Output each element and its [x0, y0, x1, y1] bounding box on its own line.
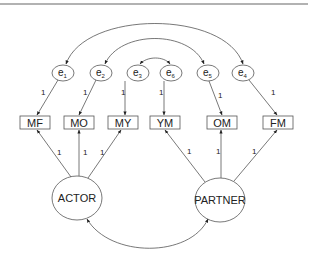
svg-text:PARTNER: PARTNER [194, 194, 246, 206]
indicator-mf: MF [20, 116, 50, 129]
loading-actor-mf: 1 [57, 148, 62, 157]
error-e2: e2 [90, 65, 112, 81]
loading-actor-my: 1 [100, 148, 105, 157]
latent-partner: PARTNER [194, 178, 246, 222]
indicator-fm: FM [263, 116, 293, 129]
loading-e5: 1 [218, 91, 223, 100]
svg-text:MY: MY [115, 117, 132, 129]
loading-actor-mo: 1 [83, 148, 88, 157]
error-e6: e6 [160, 65, 182, 81]
svg-text:MF: MF [27, 117, 43, 129]
loading-partner-om: 1 [216, 147, 221, 156]
covariance-arc-e2-e5 [105, 39, 204, 65]
sem-diagram: e1 e2 e3 e6 e5 e4 1 1 1 1 1 1 MF MO MY [0, 0, 309, 263]
svg-text:YM: YM [157, 117, 174, 129]
loading-e3: 1 [121, 88, 126, 97]
indicator-om: OM [207, 116, 237, 129]
loading-e1: 1 [41, 88, 46, 97]
path-actor-mf [37, 130, 71, 177]
indicator-my: MY [108, 116, 138, 129]
covariance-arc-actor-partner [87, 219, 208, 248]
svg-text:MO: MO [70, 117, 88, 129]
latent-actor: ACTOR [52, 176, 102, 220]
loading-partner-ym: 1 [187, 147, 192, 156]
path-actor-my [88, 130, 121, 178]
loading-partner-fm: 1 [252, 147, 257, 156]
path-partner-ym [165, 130, 205, 182]
path-e2-mo [79, 80, 96, 115]
indicator-ym: YM [150, 116, 180, 129]
svg-text:ACTOR: ACTOR [58, 192, 96, 204]
error-e3: e3 [127, 65, 149, 81]
svg-text:OM: OM [213, 117, 231, 129]
error-e4: e4 [232, 65, 254, 81]
loading-e4: 1 [271, 88, 276, 97]
path-e4-fm [249, 80, 277, 115]
loading-e6: 1 [159, 88, 164, 97]
path-e1-mf [37, 80, 58, 115]
error-e5: e5 [197, 65, 219, 81]
indicator-mo: MO [64, 116, 94, 129]
svg-text:FM: FM [270, 117, 286, 129]
loading-e2: 1 [83, 88, 88, 97]
covariance-arc-e3-e6 [140, 58, 170, 64]
error-e1: e1 [52, 65, 74, 81]
